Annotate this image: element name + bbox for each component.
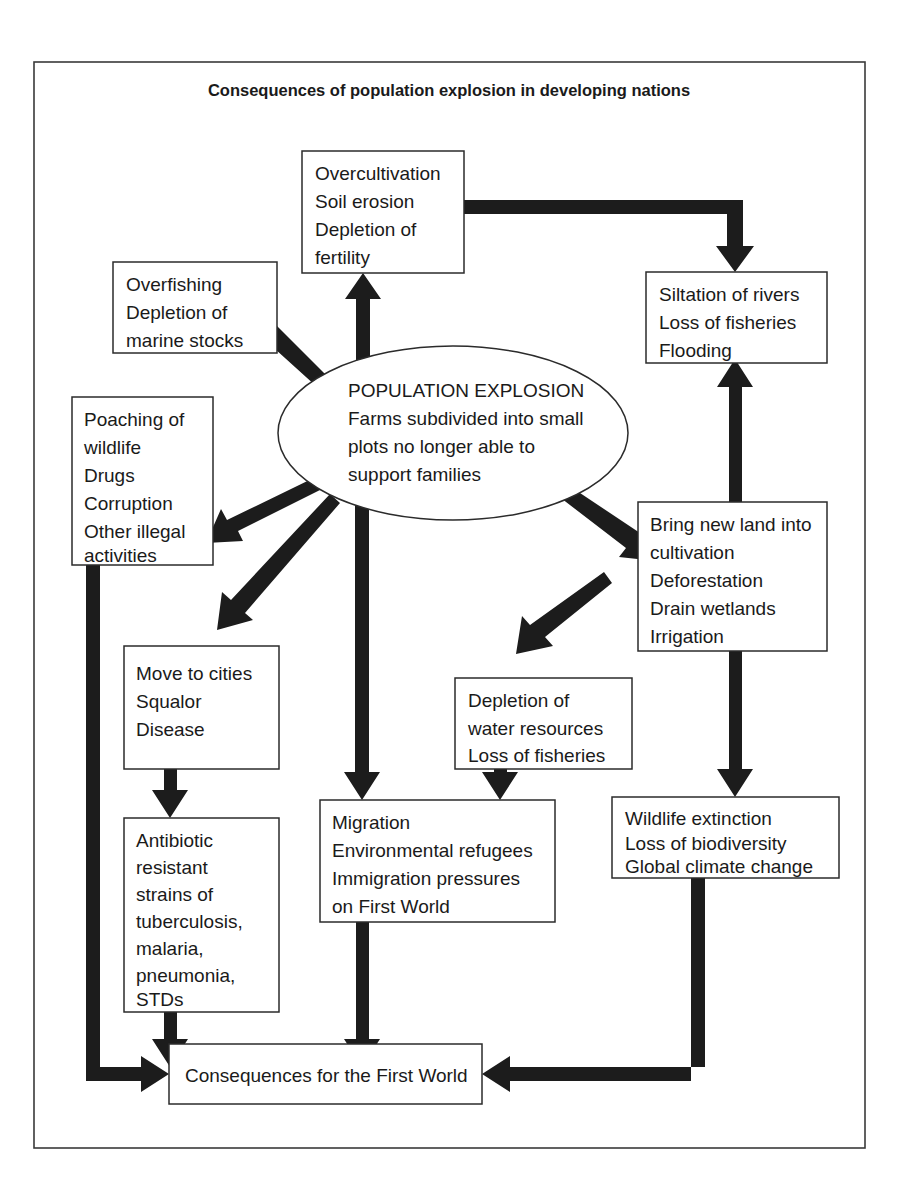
node-overfishing-line-0: Overfishing [126, 274, 222, 295]
diagram-canvas: Consequences of population explosion in … [0, 0, 899, 1203]
node-first-world[interactable]: Consequences for the First World [169, 1044, 482, 1104]
node-first-world-line-0: Consequences for the First World [185, 1065, 468, 1086]
node-antibiotic-line-1: resistant [136, 857, 209, 878]
node-wildlife-line-2: Global climate change [625, 856, 813, 877]
node-migration[interactable]: Migration Environmental refugees Immigra… [320, 800, 555, 922]
node-poaching-line-2: Drugs [84, 465, 135, 486]
node-migration-line-0: Migration [332, 812, 410, 833]
node-new-land-line-1: cultivation [650, 542, 735, 563]
node-overfishing[interactable]: Overfishing Depletion of marine stocks [113, 262, 277, 353]
node-overfishing-line-2: marine stocks [126, 330, 243, 351]
node-population-explosion-ellipse [278, 346, 628, 520]
node-population-line-3: support families [348, 464, 481, 485]
node-new-land-line-2: Deforestation [650, 570, 763, 591]
node-siltation-line-0: Siltation of rivers [659, 284, 799, 305]
node-population-line-2: plots no longer able to [348, 436, 535, 457]
node-water-depletion[interactable]: Depletion of water resources Loss of fis… [455, 678, 632, 769]
node-antibiotic-resistance[interactable]: Antibiotic resistant strains of tubercul… [124, 818, 279, 1012]
node-wildlife-line-1: Loss of biodiversity [625, 833, 787, 854]
node-antibiotic-line-0: Antibiotic [136, 830, 213, 851]
flowchart-svg: Consequences of population explosion in … [0, 0, 899, 1203]
node-move-to-cities-line-1: Squalor [136, 691, 202, 712]
node-population-explosion[interactable]: POPULATION EXPLOSION Farms subdivided in… [278, 346, 628, 520]
node-wildlife-extinction[interactable]: Wildlife extinction Loss of biodiversity… [612, 797, 839, 878]
diagram-title: Consequences of population explosion in … [208, 81, 690, 99]
node-wildlife-line-0: Wildlife extinction [625, 808, 772, 829]
node-poaching-line-4: Other illegal [84, 521, 185, 542]
node-siltation-line-1: Loss of fisheries [659, 312, 796, 333]
node-water-depletion-line-2: Loss of fisheries [468, 745, 605, 766]
node-population-line-1: Farms subdivided into small [348, 408, 583, 429]
node-water-depletion-line-1: water resources [467, 718, 603, 739]
node-poaching-line-3: Corruption [84, 493, 173, 514]
node-poaching-line-1: wildlife [83, 437, 141, 458]
node-move-to-cities[interactable]: Move to cities Squalor Disease [124, 646, 279, 769]
node-new-land-line-4: Irrigation [650, 626, 724, 647]
node-overcultivation-line-2: Depletion of [315, 219, 417, 240]
node-migration-line-2: Immigration pressures [332, 868, 520, 889]
node-poaching[interactable]: Poaching of wildlife Drugs Corruption Ot… [72, 397, 213, 566]
node-siltation[interactable]: Siltation of rivers Loss of fisheries Fl… [646, 272, 827, 363]
node-overcultivation[interactable]: Overcultivation Soil erosion Depletion o… [302, 151, 464, 273]
node-overcultivation-line-0: Overcultivation [315, 163, 441, 184]
node-antibiotic-line-4: malaria, [136, 938, 204, 959]
node-antibiotic-line-3: tuberculosis, [136, 911, 243, 932]
node-poaching-line-5: activities [84, 545, 157, 566]
node-new-land-line-3: Drain wetlands [650, 598, 776, 619]
node-migration-line-1: Environmental refugees [332, 840, 533, 861]
node-overcultivation-line-1: Soil erosion [315, 191, 414, 212]
node-move-to-cities-line-0: Move to cities [136, 663, 252, 684]
node-antibiotic-line-5: pneumonia, [136, 965, 235, 986]
node-move-to-cities-line-2: Disease [136, 719, 205, 740]
node-population-line-0: POPULATION EXPLOSION [348, 380, 584, 401]
node-migration-line-3: on First World [332, 896, 450, 917]
node-new-land[interactable]: Bring new land into cultivation Deforest… [638, 502, 827, 651]
node-water-depletion-line-0: Depletion of [468, 690, 570, 711]
node-overcultivation-line-3: fertility [315, 247, 370, 268]
node-overfishing-line-1: Depletion of [126, 302, 228, 323]
node-new-land-line-0: Bring new land into [650, 514, 812, 535]
node-antibiotic-line-2: strains of [136, 884, 214, 905]
node-antibiotic-line-6: STDs [136, 989, 184, 1010]
node-siltation-line-2: Flooding [659, 340, 732, 361]
node-poaching-line-0: Poaching of [84, 409, 185, 430]
